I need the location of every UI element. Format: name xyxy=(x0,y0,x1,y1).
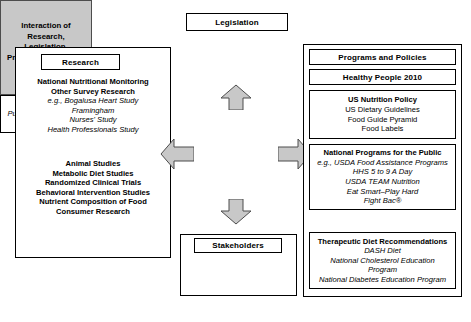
research-title-node[interactable]: Research xyxy=(41,54,120,70)
research-title-label: Research xyxy=(62,58,99,67)
us-nutrition-policy-line: Food Labels xyxy=(362,124,404,134)
therapeutic-diet-list: Therapeutic Diet RecommendationsDASH Die… xyxy=(310,234,455,287)
research-survey-line: National Nutritional Monitoring xyxy=(37,77,148,87)
us-nutrition-policy-list: US Nutrition PolicyUS Dietary Guidelines… xyxy=(310,92,455,137)
healthy-people-2010-heading[interactable]: Healthy People 2010 xyxy=(309,69,456,85)
arrow-left-icon xyxy=(160,136,194,172)
arrow-up-icon xyxy=(218,84,254,110)
healthy-people-2010-label: Healthy People 2010 xyxy=(343,73,422,82)
national-program-line: Eat Smart–Play Hard xyxy=(347,187,418,197)
research-studies-list: Animal StudiesMetabolic Diet StudiesRand… xyxy=(17,159,169,217)
therapeutic-diet-line: Program xyxy=(368,265,397,275)
research-survey-line: Framingham xyxy=(72,106,115,116)
research-survey-line: Nurses' Study xyxy=(69,115,116,125)
therapeutic-diet-line: National Cholesterol Education xyxy=(330,256,434,266)
research-study-line: Nutrient Composition of Food xyxy=(39,197,147,207)
legislation-node[interactable]: Legislation xyxy=(186,13,288,31)
stakeholders-title-label: Stakeholders xyxy=(212,241,263,250)
center-hub-line: Research, xyxy=(7,32,85,42)
national-program-line: USDA TEAM Nutrition xyxy=(345,177,419,187)
research-study-line: Animal Studies xyxy=(66,159,121,169)
research-survey-line: Health Professionals Study xyxy=(47,125,138,135)
therapeutic-diet-line: DASH Diet xyxy=(364,246,401,256)
therapeutic-diet-line: National Diabetes Education Program xyxy=(319,275,446,285)
national-program-line: Fight Bac® xyxy=(364,196,402,206)
arrow-down-icon xyxy=(218,199,254,225)
us-nutrition-policy-line: US Dietary Guidelines xyxy=(345,105,420,115)
legislation-label: Legislation xyxy=(215,18,258,27)
research-study-line: Behavioral Intervention Studies xyxy=(36,188,150,198)
us-nutrition-policy-line: Food Guide Pyramid xyxy=(348,115,418,125)
programs-and-policies-label: Programs and Policies xyxy=(338,53,426,62)
us-nutrition-policy-line: US Nutrition Policy xyxy=(348,95,417,105)
research-study-line: Consumer Research xyxy=(56,207,130,217)
stakeholders-title-node[interactable]: Stakeholders xyxy=(194,238,282,253)
national-program-line: e.g., USDA Food Assistance Programs xyxy=(317,158,448,168)
research-survey-line: e.g., Bogalusa Heart Study xyxy=(48,96,139,106)
research-survey-list: National Nutritional MonitoringOther Sur… xyxy=(17,77,169,135)
national-program-line: HHS 5 to 9 A Day xyxy=(353,167,412,177)
research-study-line: Randomized Clinical Trials xyxy=(45,178,141,188)
therapeutic-diet-line: Therapeutic Diet Recommendations xyxy=(318,237,448,247)
diagram-canvas: Legislation Research National Nutritiona… xyxy=(0,0,471,322)
research-study-line: Metabolic Diet Studies xyxy=(52,169,133,179)
national-program-line: National Programs for the Public xyxy=(323,148,441,158)
research-survey-line: Other Survey Research xyxy=(51,87,135,97)
center-hub-line: Interaction of xyxy=(7,21,85,31)
programs-and-policies-heading[interactable]: Programs and Policies xyxy=(309,49,456,65)
national-programs-list: National Programs for the Publice.g., US… xyxy=(310,146,455,208)
